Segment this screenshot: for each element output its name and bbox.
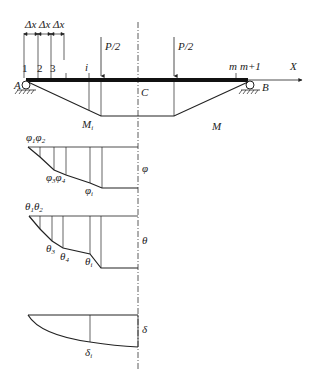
node-label-m-plus-1: m+1 [240, 60, 261, 72]
segment-label-3: Δx [52, 18, 64, 30]
delta-diagram: δi δ [28, 315, 148, 360]
phi-diagram-label: φ [142, 162, 148, 174]
support-b-label: B [262, 81, 269, 93]
support-b [239, 81, 260, 94]
beam [26, 78, 248, 82]
load-right-label: P/2 [177, 40, 194, 52]
center-label: C [141, 86, 149, 98]
phi-diagram: φ1φ2 φ3φ4 φi φ [26, 131, 148, 198]
theta-diagram-label: θ [142, 234, 148, 246]
phi-top-labels: φ1φ2 [26, 131, 46, 145]
support-a-label: A [13, 79, 21, 91]
theta-top-labels: θ1θ2 [25, 200, 43, 214]
node-label-1: 1 [22, 62, 28, 74]
delta-diagram-label: δ [142, 323, 148, 335]
theta-label-3: θ3 [46, 242, 55, 256]
x-axis-label: X [289, 60, 298, 72]
beam-group: X A B C P/2 P/2 [13, 18, 302, 98]
segment-label-2: Δx [38, 18, 50, 30]
node-label-i: i [85, 61, 88, 73]
node-label-2: 2 [37, 62, 43, 74]
theta-point-label: θi [85, 255, 92, 269]
load-left-label: P/2 [104, 40, 121, 52]
node-label-3: 3 [50, 62, 56, 74]
delta-point-label: δi [85, 346, 92, 360]
moment-diagram-label: M [211, 120, 222, 132]
node-ticks [66, 73, 236, 78]
beam-analysis-diagram: X A B C P/2 P/2 [0, 0, 309, 375]
segment-label-1: Δx [24, 18, 36, 30]
segment-dimensions [24, 33, 64, 79]
theta-label-4: θ4 [60, 250, 69, 264]
moment-point-label: Mi [81, 118, 93, 132]
theta-diagram: θ1θ2 θ3 θ4 θi θ [25, 200, 148, 269]
node-label-m: m [229, 60, 237, 72]
phi-point-label: φi [85, 184, 93, 198]
